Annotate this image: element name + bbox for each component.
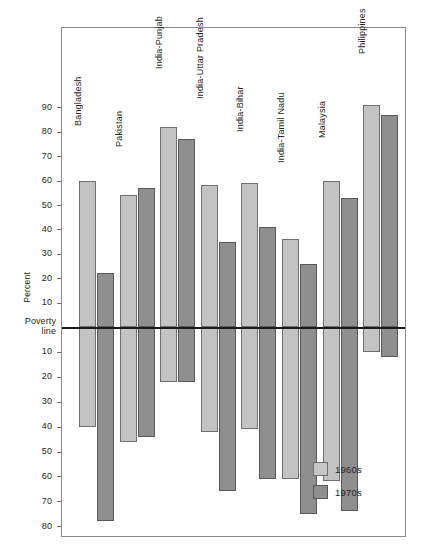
chart-root: Percent Poverty line 1020304050607080901… [0, 0, 425, 553]
bar-below-line [241, 327, 258, 429]
y-tick-label: 50 [26, 201, 52, 210]
bar-above-line [120, 195, 137, 327]
category-label: Malaysia [317, 101, 327, 138]
legend-item-1960s: 1960s [313, 462, 362, 476]
y-tick-mark [57, 352, 62, 353]
y-tick-label: 60 [26, 472, 52, 481]
y-tick-mark [57, 427, 62, 428]
y-tick-mark [57, 181, 62, 182]
y-tick-mark [57, 132, 62, 133]
y-tick-label: 50 [26, 447, 52, 456]
y-tick-mark [57, 402, 62, 403]
category-label: India-Bihar [235, 87, 245, 133]
legend-label-1970s: 1970s [335, 487, 362, 498]
y-tick-label: 30 [26, 397, 52, 406]
y-tick-label: 20 [26, 274, 52, 283]
category-label: India-Uttar Pradesh [195, 17, 205, 99]
y-tick-mark [57, 526, 62, 527]
y-tick-label: 10 [26, 347, 52, 356]
y-tick-mark [57, 303, 62, 304]
bar-below-line [381, 327, 398, 357]
bar-below-line [160, 327, 177, 382]
bar-below-line [219, 327, 236, 491]
bar-above-line [241, 183, 258, 327]
bar-below-line [120, 327, 137, 442]
legend-item-1970s: 1970s [313, 485, 362, 499]
bar-below-line [259, 327, 276, 479]
y-tick-mark [57, 278, 62, 279]
y-tick-mark [57, 107, 62, 108]
bar-below-line [79, 327, 96, 427]
y-tick-label: 40 [26, 422, 52, 431]
bar-above-line [363, 105, 380, 327]
legend: 1960s 1970s [313, 462, 399, 506]
bar-below-line [363, 327, 380, 352]
bar-above-line [97, 273, 114, 327]
y-tick-mark [57, 377, 62, 378]
poverty-line [62, 327, 405, 329]
y-tick-label: 70 [26, 497, 52, 506]
bar-above-line [138, 188, 155, 327]
bar-above-line [341, 198, 358, 327]
bar-above-line [160, 127, 177, 327]
y-tick-label: 30 [26, 249, 52, 258]
y-tick-label: 80 [26, 127, 52, 136]
y-tick-label: 90 [26, 103, 52, 112]
y-tick-mark [57, 254, 62, 255]
poverty-line-label-bottom: line [12, 326, 56, 337]
bar-below-line [282, 327, 299, 479]
y-tick-label: 40 [26, 225, 52, 234]
bar-above-line [282, 239, 299, 327]
bar-below-line [97, 327, 114, 521]
y-tick-label: 80 [26, 522, 52, 531]
y-tick-label: 20 [26, 372, 52, 381]
bar-below-line [178, 327, 195, 382]
bar-above-line [323, 181, 340, 327]
category-label: India-Tamil Nadu [276, 93, 286, 164]
bar-below-line [138, 327, 155, 437]
bar-below-line [201, 327, 218, 432]
bar-above-line [300, 264, 317, 327]
y-tick-mark [57, 476, 62, 477]
y-tick-mark [57, 205, 62, 206]
y-tick-label: 10 [26, 298, 52, 307]
category-label: Pakistan [114, 111, 124, 147]
y-tick-label: 70 [26, 152, 52, 161]
bar-above-line [201, 185, 218, 327]
y-tick-mark [57, 501, 62, 502]
y-tick-mark [57, 229, 62, 230]
legend-label-1960s: 1960s [335, 464, 362, 475]
bar-above-line [178, 139, 195, 327]
category-label: India-Punjab [154, 16, 164, 69]
y-tick-mark [57, 156, 62, 157]
bar-above-line [219, 242, 236, 327]
category-label: Philippines [357, 9, 367, 55]
y-tick-mark [57, 452, 62, 453]
y-tick-label: 60 [26, 176, 52, 185]
bar-above-line [79, 181, 96, 327]
category-label: Bangladesh [73, 77, 83, 127]
legend-swatch-1970s [313, 485, 328, 499]
bar-below-line [323, 327, 340, 481]
poverty-line-label-top: Poverty [12, 316, 56, 327]
bar-above-line [381, 115, 398, 327]
legend-swatch-1960s [313, 462, 328, 476]
bar-above-line [259, 227, 276, 327]
